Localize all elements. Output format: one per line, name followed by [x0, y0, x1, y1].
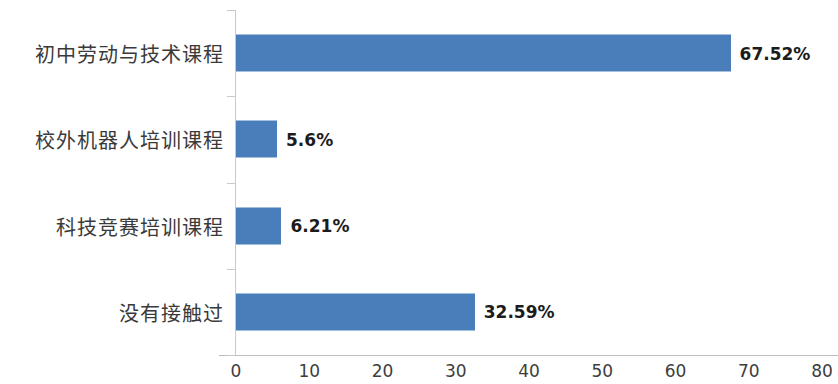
x-axis-line [219, 355, 838, 356]
category-label: 初中劳动与技术课程 [0, 39, 224, 68]
bar-group: 32.59% [236, 293, 555, 330]
bar[interactable] [236, 121, 277, 158]
bar-group: 6.21% [236, 207, 349, 244]
x-axis-tick-label: 0 [206, 361, 266, 381]
y-axis-tick [227, 355, 236, 356]
bar-row: 科技竞赛培训课程6.21% [0, 183, 838, 269]
bar-row: 校外机器人培训课程5.6% [0, 96, 838, 182]
bar-value-label: 67.52% [740, 43, 811, 63]
x-axis-tick-label: 70 [719, 361, 779, 381]
horizontal-bar-chart: 初中劳动与技术课程67.52%校外机器人培训课程5.6%科技竞赛培训课程6.21… [0, 0, 838, 384]
bar-value-label: 6.21% [290, 216, 349, 236]
x-axis-tick-label: 20 [353, 361, 413, 381]
category-label: 科技竞赛培训课程 [0, 211, 224, 240]
x-axis-tick-label: 50 [572, 361, 632, 381]
bar-row: 没有接触过32.59% [0, 269, 838, 355]
bar-row: 初中劳动与技术课程67.52% [0, 10, 838, 96]
bar[interactable] [236, 293, 475, 330]
bar[interactable] [236, 35, 731, 72]
x-axis-tick-label: 80 [792, 361, 838, 381]
x-axis-tick-label: 60 [646, 361, 706, 381]
x-axis-tick-label: 30 [426, 361, 486, 381]
bar[interactable] [236, 207, 281, 244]
bar-value-label: 32.59% [484, 302, 555, 322]
x-axis-tick-label: 10 [279, 361, 339, 381]
category-label: 没有接触过 [0, 297, 224, 326]
bar-group: 67.52% [236, 35, 810, 72]
x-axis-tick-label: 40 [499, 361, 559, 381]
category-label: 校外机器人培训课程 [0, 125, 224, 154]
bar-group: 5.6% [236, 121, 333, 158]
bar-value-label: 5.6% [286, 129, 333, 149]
